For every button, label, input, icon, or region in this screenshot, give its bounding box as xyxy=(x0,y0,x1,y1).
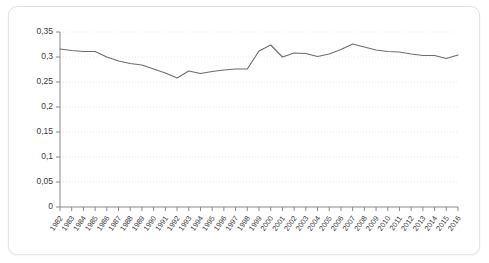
gridlines-group xyxy=(60,32,458,182)
y-axis-tick-label: 0,25 xyxy=(36,76,53,86)
chart-page: 00,050,10,150,20,250,30,35 1982198319841… xyxy=(0,0,489,263)
data-series-line xyxy=(60,44,458,78)
line-chart-svg: 00,050,10,150,20,250,30,35 1982198319841… xyxy=(0,0,489,263)
y-axis-tick-label: 0 xyxy=(48,201,53,211)
y-axis-labels-group: 00,050,10,150,20,250,30,35 xyxy=(36,26,53,211)
chart-plot-area: 00,050,10,150,20,250,30,35 1982198319841… xyxy=(0,0,489,263)
x-axis-tick-label: 2016 xyxy=(446,214,463,233)
y-axis-tick-label: 0,05 xyxy=(36,176,53,186)
y-axis-tick-label: 0,3 xyxy=(41,51,53,61)
y-axis-tick-label: 0,1 xyxy=(41,151,53,161)
y-axis-tick-label: 0,35 xyxy=(36,26,53,36)
y-axis-ticks-group xyxy=(56,32,60,207)
y-axis-tick-label: 0,15 xyxy=(36,126,53,136)
y-axis-tick-label: 0,2 xyxy=(41,101,53,111)
x-axis-ticks-group xyxy=(60,207,458,211)
x-axis-labels-group: 1982198319841985198619871988198919901991… xyxy=(48,214,463,233)
